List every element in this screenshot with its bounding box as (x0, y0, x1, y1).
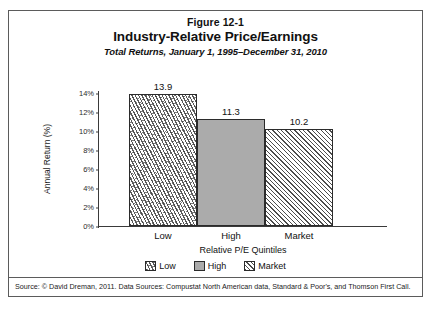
bar-market: 10.2 (265, 129, 333, 226)
x-axis-category-market: Market (284, 230, 313, 241)
y-axis-tick: 14% (79, 89, 99, 98)
figure-number: Figure 12-1 (9, 16, 422, 29)
legend-item-low: Low (145, 261, 176, 271)
x-axis-category-low: Low (154, 230, 171, 241)
source-divider (9, 277, 422, 278)
y-axis-tick: 10% (79, 127, 99, 136)
legend-swatch-icon (145, 261, 156, 271)
y-axis-tick: 4% (83, 184, 99, 193)
y-axis-tick: 8% (83, 146, 99, 155)
bar-value-label: 13.9 (154, 81, 173, 92)
bar-high: 11.3 (197, 119, 265, 226)
y-axis-title: Annual Return (%) (42, 124, 52, 194)
y-axis-tick: 12% (79, 108, 99, 117)
source-note: Source: © David Dreman, 2011. Data Sourc… (15, 282, 416, 291)
legend-item-market: Market (244, 261, 286, 271)
figure-subtitle: Total Returns, January 1, 1995–December … (9, 45, 422, 58)
chart-legend: LowHighMarket (9, 261, 422, 271)
legend-swatch-icon (194, 261, 205, 271)
x-axis-line (98, 226, 387, 227)
x-axis-category-high: High (221, 230, 241, 241)
figure-frame: Figure 12-1 Industry-Relative Price/Earn… (8, 10, 423, 297)
x-axis-title: Relative P/E Quintiles (199, 245, 286, 255)
bar-value-label: 11.3 (222, 106, 240, 117)
y-axis-tick: 2% (83, 203, 99, 212)
y-axis-tick: 0% (83, 222, 99, 231)
y-axis-tick: 6% (83, 165, 99, 174)
legend-item-high: High (194, 261, 227, 271)
figure-title: Industry-Relative Price/Earnings (9, 29, 422, 45)
bar-low: 13.9 (129, 94, 197, 226)
legend-label: High (208, 261, 227, 271)
legend-label: Market (258, 261, 286, 271)
plot-area: 0%2%4%6%8%10%12%14%13.911.310.2 (99, 93, 387, 226)
title-block: Figure 12-1 Industry-Relative Price/Earn… (9, 16, 422, 58)
legend-swatch-icon (244, 261, 255, 271)
bar-value-label: 10.2 (290, 116, 309, 127)
legend-label: Low (159, 261, 176, 271)
